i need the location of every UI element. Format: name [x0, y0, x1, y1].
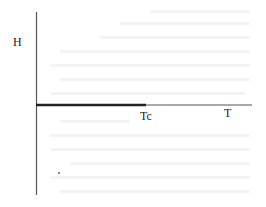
critical-temperature-label: Tc — [140, 110, 152, 122]
phase-diagram — [0, 0, 266, 207]
t-axis-label: T — [224, 107, 231, 119]
stray-dot-artifact — [58, 172, 60, 174]
h-axis-label: H — [13, 36, 22, 48]
